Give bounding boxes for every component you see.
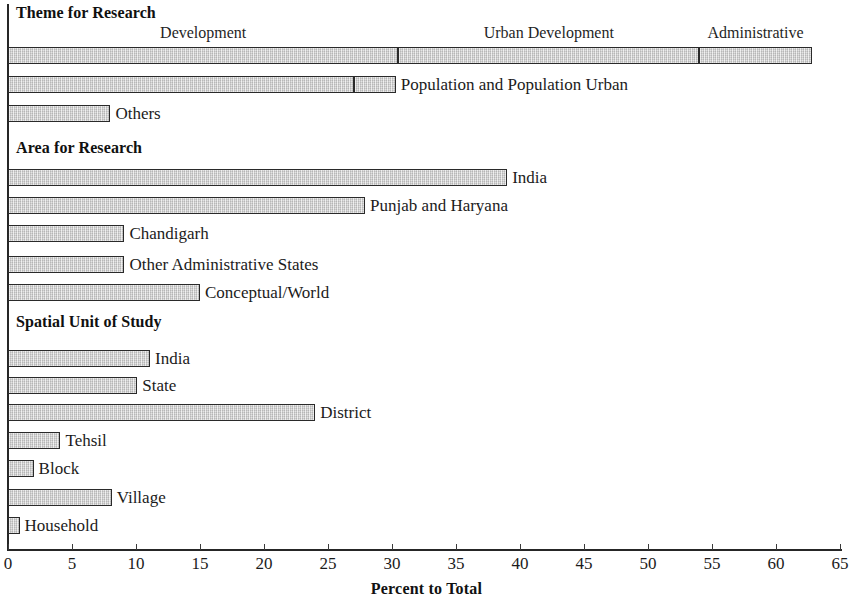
bar — [8, 460, 34, 477]
bar-row: Conceptual/World — [8, 284, 853, 301]
bar-label: India — [155, 350, 190, 368]
bar-row: Population and Population Urban — [8, 76, 853, 93]
bar-row: India — [8, 169, 853, 186]
x-tick-label: 40 — [512, 554, 529, 574]
x-tick-mark — [840, 544, 841, 550]
x-tick-label: 30 — [384, 554, 401, 574]
bar-segment — [8, 47, 398, 64]
stacked-segment-label: Urban Development — [484, 24, 614, 42]
plot-area: 05101520253035404550556065 Theme for Res… — [0, 0, 853, 552]
x-tick-mark — [776, 544, 777, 550]
x-tick-label: 35 — [448, 554, 465, 574]
x-tick-mark — [392, 544, 393, 550]
x-tick-mark — [72, 544, 73, 550]
x-tick-mark — [328, 544, 329, 550]
bar-label: Population and Population Urban — [401, 76, 628, 94]
bar-label: Other Administrative States — [129, 256, 318, 274]
bar — [8, 432, 60, 449]
x-axis-line — [7, 549, 842, 551]
bar-segment — [699, 47, 812, 64]
x-tick-mark — [584, 544, 585, 550]
x-tick-mark — [8, 544, 9, 550]
bar-row: Block — [8, 460, 853, 477]
group-heading: Spatial Unit of Study — [16, 313, 162, 331]
x-tick-label: 25 — [320, 554, 337, 574]
x-tick-label: 55 — [704, 554, 721, 574]
x-tick-mark — [648, 544, 649, 550]
bar — [8, 256, 124, 273]
stacked-segment-label: Development — [160, 24, 246, 42]
bar-label: India — [512, 169, 547, 187]
x-tick-label: 50 — [640, 554, 657, 574]
bar — [8, 489, 112, 506]
bar-row: Household — [8, 517, 853, 534]
bar-label: Household — [25, 517, 99, 535]
bar-row — [8, 47, 853, 64]
bar-row: State — [8, 377, 853, 394]
x-tick-mark — [264, 544, 265, 550]
x-tick-label: 15 — [192, 554, 209, 574]
bar — [8, 350, 150, 367]
bar-segment — [398, 47, 699, 64]
x-tick-mark — [712, 544, 713, 550]
x-tick-mark — [456, 544, 457, 550]
bar-label: Punjab and Haryana — [370, 197, 508, 215]
bar — [8, 284, 200, 301]
x-tick-label: 45 — [576, 554, 593, 574]
group-heading: Area for Research — [16, 139, 142, 157]
x-tick-label: 20 — [256, 554, 273, 574]
bar-row: Chandigarh — [8, 225, 853, 242]
bar-label: Tehsil — [65, 432, 106, 450]
group-heading: Theme for Research — [16, 4, 156, 22]
bar-row: Others — [8, 105, 853, 122]
bar-row: District — [8, 404, 853, 421]
bar-row: Village — [8, 489, 853, 506]
bar-label: Block — [39, 460, 80, 478]
bar-label: Village — [117, 489, 166, 507]
bar — [8, 404, 315, 421]
x-tick-label: 65 — [832, 554, 849, 574]
bar-segment — [8, 76, 354, 93]
bar-row: Punjab and Haryana — [8, 197, 853, 214]
bar-label: Conceptual/World — [205, 284, 329, 302]
bar-label: District — [320, 404, 371, 422]
bar — [8, 105, 110, 122]
x-tick-label: 0 — [4, 554, 13, 574]
bar-chart: 05101520253035404550556065 Theme for Res… — [0, 0, 853, 605]
bar — [8, 197, 365, 214]
bar-segment — [354, 76, 396, 93]
x-tick-label: 60 — [768, 554, 785, 574]
bar-label: Others — [115, 105, 160, 123]
bar — [8, 377, 137, 394]
x-tick-label: 5 — [68, 554, 77, 574]
bar-row: Tehsil — [8, 432, 853, 449]
x-tick-mark — [520, 544, 521, 550]
bar — [8, 225, 124, 242]
stacked-segment-label: Administrative — [708, 24, 804, 42]
bar-row: Other Administrative States — [8, 256, 853, 273]
bar — [8, 517, 20, 534]
bar — [8, 169, 507, 186]
x-axis-title: Percent to Total — [0, 580, 853, 598]
x-tick-label: 10 — [128, 554, 145, 574]
bar-label: Chandigarh — [129, 225, 208, 243]
x-tick-mark — [136, 544, 137, 550]
bar-row: India — [8, 350, 853, 367]
bar-label: State — [142, 377, 176, 395]
x-tick-mark — [200, 544, 201, 550]
